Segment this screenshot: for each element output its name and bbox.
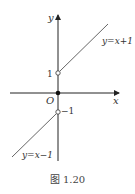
figure-caption: 图 1.20 — [0, 171, 135, 186]
y-axis-label: y — [47, 12, 54, 23]
origin-dot — [56, 91, 61, 96]
label-upper-line: y=x+1 — [101, 36, 133, 46]
origin-label: O — [46, 95, 54, 106]
open-point-1 — [56, 71, 60, 75]
tick-1: 1 — [47, 69, 53, 79]
piecewise-graph: y x O 1 −1 y=x+1 y=x−1 — [0, 0, 135, 194]
x-axis-label: x — [113, 95, 119, 106]
open-point-neg1 — [56, 110, 60, 114]
line-y-eq-x-plus-1 — [60, 24, 108, 71]
tick-neg1: −1 — [61, 106, 74, 116]
label-lower-line: y=x−1 — [21, 150, 53, 160]
